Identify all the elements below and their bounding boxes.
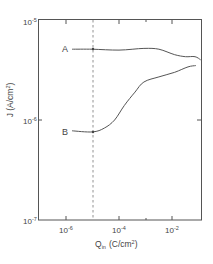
svg-text:J (A/cm2): J (A/cm2) xyxy=(5,82,15,117)
series-a-line xyxy=(72,48,201,59)
x-tick-label-1e-4: 10-4 xyxy=(112,225,126,236)
y-axis-label: J (A/cm2) xyxy=(5,82,15,117)
svg-text:10-7: 10-7 xyxy=(23,216,37,227)
x-ticks-top xyxy=(66,20,172,24)
series-a-label: A xyxy=(62,44,68,54)
y-tick-label-1e-6: 10-6 xyxy=(23,116,37,127)
series-b-line xyxy=(72,66,196,132)
svg-text:Qin(C/cm2): Qin(C/cm2) xyxy=(95,239,138,250)
svg-text:10-4: 10-4 xyxy=(112,225,126,236)
x-tick-label-1e-2: 10-2 xyxy=(165,225,179,236)
y-tick-label-1e-5: 10-5 xyxy=(23,17,37,28)
series-b-label: B xyxy=(62,127,68,137)
svg-text:10-2: 10-2 xyxy=(165,225,179,236)
x-axis-label: Qin(C/cm2) xyxy=(95,239,138,250)
y-tick-label-1e-7: 10-7 xyxy=(23,216,37,227)
chart-canvas: A B 10-5 10-6 10-7 10-6 10-4 10-2 Qin(C/… xyxy=(0,0,213,264)
x-ticks-bottom xyxy=(66,216,172,220)
svg-text:10-6: 10-6 xyxy=(59,225,73,236)
svg-text:10-5: 10-5 xyxy=(23,17,37,28)
series-a-marker xyxy=(92,48,94,50)
svg-text:10-6: 10-6 xyxy=(23,116,37,127)
series-b-marker xyxy=(92,131,94,133)
x-tick-label-1e-6: 10-6 xyxy=(59,225,73,236)
